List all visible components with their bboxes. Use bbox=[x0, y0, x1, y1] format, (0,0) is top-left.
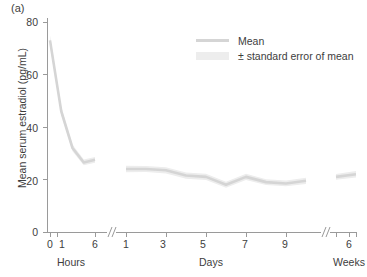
axis-lines bbox=[43, 18, 356, 237]
sem-band bbox=[50, 35, 356, 188]
mean-line-hours bbox=[50, 40, 95, 162]
mean-line bbox=[50, 40, 356, 184]
plot-area bbox=[0, 0, 367, 277]
figure-panel-a: (a) Mean serum estradiol (pg/mL) 80 60 4… bbox=[0, 0, 367, 277]
